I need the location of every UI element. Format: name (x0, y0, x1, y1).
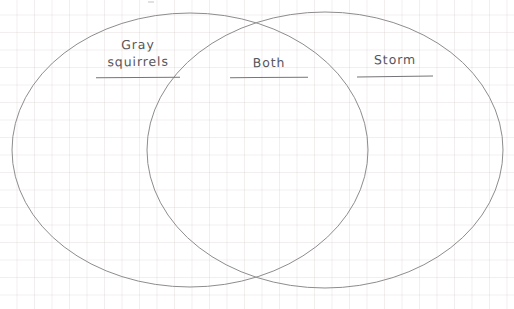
venn-diagram-canvas (0, 0, 514, 309)
label-storm-line1: Storm (355, 51, 435, 69)
label-both-line1: Both (229, 54, 309, 72)
right-circle (147, 12, 503, 288)
label-gray-squirrels: Gray squirrels (88, 35, 188, 70)
label-gray-squirrels-line2: squirrels (88, 52, 188, 70)
label-storm: Storm (355, 51, 435, 69)
venn-diagram-worksheet: Gray squirrels Both Storm (0, 0, 514, 309)
label-both: Both (229, 54, 309, 72)
label-gray-squirrels-line1: Gray (88, 35, 188, 53)
left-circle (12, 13, 368, 287)
